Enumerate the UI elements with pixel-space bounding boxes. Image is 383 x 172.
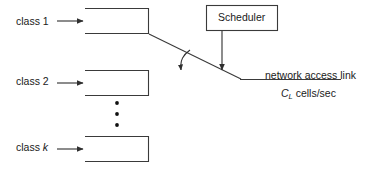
- vertical-ellipsis: [115, 101, 119, 127]
- link-capacity-label: CL cells/sec: [281, 88, 336, 99]
- aggregation-line: [149, 34, 241, 79]
- queue-label-class-k: class k: [16, 142, 48, 153]
- network-access-link-label: network access link: [265, 70, 356, 81]
- queue-label-class-k-index: k: [43, 141, 48, 153]
- scheduler-label: Scheduler: [218, 12, 265, 23]
- queue-box-class-k: [85, 137, 149, 162]
- queue-box-class-2: [85, 71, 149, 96]
- capacity-subscript: L: [289, 92, 293, 101]
- queue-label-class-k-text: class: [16, 141, 43, 153]
- queueing-scheduler-diagram: class 1 class 2 class k Scheduler networ…: [0, 0, 383, 172]
- queue-label-class-1: class 1: [16, 16, 49, 27]
- capacity-symbol: C: [281, 87, 289, 99]
- diagram-canvas: [0, 0, 383, 172]
- queue-box-class-1: [85, 9, 149, 34]
- capacity-units: cells/sec: [296, 87, 336, 99]
- queue-label-class-2: class 2: [16, 76, 49, 87]
